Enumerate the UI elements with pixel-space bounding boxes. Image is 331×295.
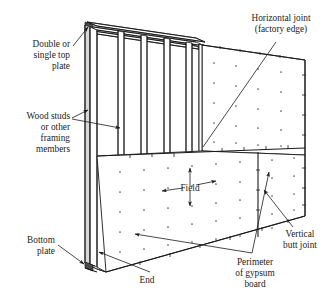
end-post — [85, 25, 97, 269]
perimeter-line-1: Perimeter — [237, 257, 274, 267]
label-field: Field — [180, 183, 199, 193]
upper-gypsum-panel — [202, 45, 305, 155]
perimeter-line-2: of gypsum — [235, 268, 275, 278]
wood-studs-line-1: Wood studs — [27, 111, 71, 121]
label-horizontal-joint: Horizontal joint (factory edge) — [251, 13, 311, 35]
diagram-canvas: Double or single top plate Wood studs or… — [0, 0, 331, 295]
vertical-butt-joint-line-1: Vertical — [286, 229, 315, 239]
horizontal-joint-line-1: Horizontal joint — [251, 13, 311, 23]
bottom-plate-line-1: Bottom — [27, 235, 56, 245]
top-plate-line-1: Double or — [33, 39, 71, 49]
upper-gypsum-panel-left-return — [199, 44, 202, 152]
top-plate-line-3: plate — [52, 61, 70, 71]
gypsum-board-wall-diagram: Double or single top plate Wood studs or… — [0, 0, 331, 295]
label-end: End — [140, 275, 155, 285]
wood-studs-line-4: members — [36, 144, 70, 154]
horizontal-joint-line-2: (factory edge) — [255, 24, 307, 35]
label-vertical-butt-joint: Vertical butt joint — [283, 229, 317, 250]
wood-studs-line-3: framing — [41, 133, 71, 143]
top-plate-line-2: single top — [34, 50, 71, 60]
wood-studs-line-2: or other — [41, 122, 71, 132]
bottom-plate-line-2: plate — [37, 246, 55, 256]
vertical-butt-joint-line-2: butt joint — [283, 240, 317, 250]
perimeter-line-3: board — [244, 279, 266, 289]
